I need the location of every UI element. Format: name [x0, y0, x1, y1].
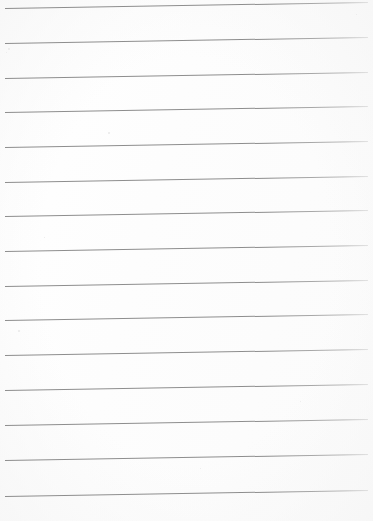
ruled-line: [5, 2, 368, 9]
ruled-line: [5, 454, 368, 461]
ruled-line: [5, 141, 368, 148]
ruled-lines-group: [0, 0, 373, 521]
ruled-line: [5, 37, 368, 44]
scanned-paper-page: [0, 0, 373, 521]
ruled-line: [5, 280, 368, 287]
ruled-line: [5, 245, 368, 252]
ruled-line: [5, 72, 368, 79]
ruled-line: [5, 419, 368, 426]
ruled-line: [5, 314, 368, 321]
ruled-line: [5, 490, 368, 497]
ruled-line: [5, 210, 368, 217]
ruled-line: [5, 176, 368, 183]
ruled-line: [5, 349, 368, 356]
ruled-line: [5, 384, 368, 391]
ruled-line: [5, 106, 368, 113]
